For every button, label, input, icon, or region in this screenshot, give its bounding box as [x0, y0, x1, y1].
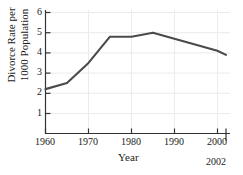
- grid-horizontal: [45, 13, 230, 114]
- y-tick-label-1: 1: [28, 107, 42, 118]
- y-axis-title-line2: 1000 Population: [18, 0, 31, 105]
- y-axis-title: Divorce Rate per 1000 Population: [5, 0, 35, 105]
- x-tick-label-1960: 1960: [28, 136, 62, 147]
- x-tick-label-1990: 1990: [157, 136, 191, 147]
- divorce-rate-line-chart: 6 5 4 3 2 1 1960 1970 1980 1990 2000 200…: [0, 0, 243, 175]
- grid-vertical: [46, 10, 218, 133]
- data-line-divorce-rate: [46, 33, 227, 89]
- x-tick-label-1980: 1980: [114, 136, 148, 147]
- y-tick-marks: [46, 13, 51, 114]
- x-tick-label-2002: 2002: [206, 156, 226, 167]
- x-axis-title: Year: [118, 151, 139, 163]
- x-tick-label-2000: 2000: [200, 136, 234, 147]
- y-axis-title-line1: Divorce Rate per: [5, 0, 18, 105]
- x-tick-label-1970: 1970: [71, 136, 105, 147]
